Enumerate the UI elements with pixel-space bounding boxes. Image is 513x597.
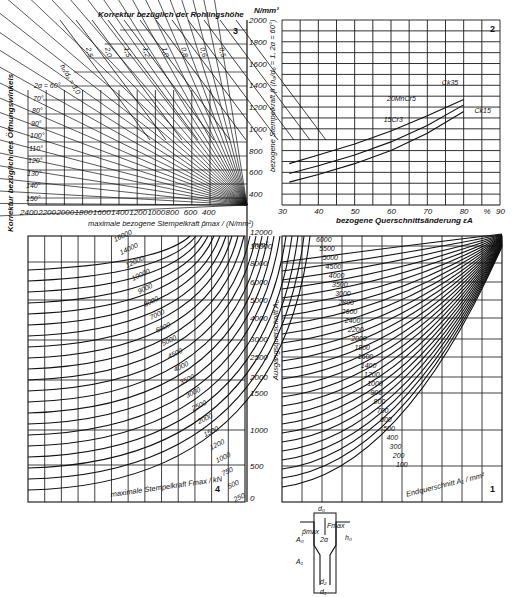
svg-text:90: 90: [496, 207, 505, 216]
svg-text:4: 4: [215, 484, 220, 494]
chart2-unit: N/mm²: [254, 6, 279, 15]
series-label: Ck35: [442, 79, 458, 86]
svg-text:2400: 2400: [344, 317, 361, 324]
svg-text:500: 500: [250, 462, 264, 471]
svg-text:0: 0: [250, 494, 255, 503]
svg-text:900: 900: [370, 389, 382, 396]
svg-text:600: 600: [184, 208, 198, 217]
svg-text:1600: 1600: [93, 208, 111, 217]
series-label: Ck15: [475, 107, 491, 114]
svg-text:2,5: 2,5: [85, 45, 95, 57]
svg-text:750: 750: [220, 466, 234, 477]
svg-text:40: 40: [314, 207, 323, 216]
svg-text:1500: 1500: [250, 389, 268, 398]
svg-text:2200: 2200: [37, 208, 56, 217]
svg-text:1,0: 1,0: [161, 46, 170, 57]
svg-text:2600: 2600: [341, 308, 358, 315]
svg-text:d₂: d₂: [320, 578, 327, 585]
curve-20mncr5: [289, 99, 463, 163]
chart2-grid: [282, 20, 500, 205]
svg-text:400: 400: [202, 208, 216, 217]
series-label: 20MnCr5: [386, 95, 416, 102]
svg-text:100: 100: [396, 461, 408, 468]
svg-text:8000: 8000: [250, 259, 268, 268]
svg-text:2α: 2α: [319, 536, 329, 543]
svg-text:1200: 1200: [129, 208, 147, 217]
svg-text:3000: 3000: [250, 335, 268, 344]
svg-text:0,8: 0,8: [180, 46, 189, 57]
svg-text:p̄max: p̄max: [301, 528, 320, 536]
svg-text:7000: 7000: [148, 308, 165, 321]
svg-text:80: 80: [460, 207, 469, 216]
svg-text:1: 1: [490, 484, 495, 494]
svg-text:5500: 5500: [319, 245, 335, 252]
chart1-unit: mm²: [252, 240, 268, 249]
svg-text:1000: 1000: [250, 426, 268, 435]
svg-text:d₁: d₁: [320, 588, 327, 595]
svg-text:0,6: 0,6: [199, 46, 208, 57]
svg-text:4500: 4500: [326, 263, 342, 270]
svg-text:12000: 12000: [124, 254, 145, 269]
svg-text:1800: 1800: [354, 344, 370, 351]
svg-text:1800: 1800: [75, 208, 93, 217]
svg-text:30: 30: [278, 207, 287, 216]
svg-text:100°: 100°: [30, 132, 45, 139]
svg-text:2000: 2000: [248, 16, 267, 25]
svg-text:4000: 4000: [250, 314, 268, 323]
svg-text:5000: 5000: [322, 254, 338, 261]
svg-text:5000: 5000: [250, 296, 268, 305]
svg-text:50: 50: [351, 207, 360, 216]
svg-text:6000: 6000: [316, 236, 332, 243]
svg-text:600: 600: [249, 168, 263, 177]
svg-text:16000: 16000: [112, 228, 133, 243]
svg-text:1400: 1400: [249, 81, 267, 90]
svg-text:80°: 80°: [32, 107, 43, 114]
svg-text:800: 800: [166, 208, 180, 217]
svg-text:3500: 3500: [332, 281, 348, 288]
svg-text:200: 200: [392, 452, 405, 459]
chart-3: 2400220020001800160014001200100080060040…: [0, 0, 326, 220]
svg-text:0,5: 0,5: [218, 46, 227, 57]
svg-text:2800: 2800: [337, 299, 354, 306]
svg-text:3500: 3500: [178, 373, 195, 386]
svg-text:14000: 14000: [118, 241, 139, 256]
svg-text:4000: 4000: [329, 272, 345, 279]
svg-text:1200: 1200: [208, 438, 225, 451]
chart3-x-label: maximale bezogene Stempelkraft p̄max / (…: [88, 219, 253, 228]
chart1-y-label: Ausgangsquerschnitt A₀: [271, 300, 280, 380]
svg-text:1400: 1400: [111, 208, 129, 217]
chart2-y-label: bezogene Stempelkraft p̄ (h₀/d₀ = 1, 2α …: [268, 20, 277, 172]
svg-text:130°: 130°: [27, 170, 42, 177]
svg-text:400: 400: [386, 434, 398, 441]
chart-2: 4006008001000120014001600180020003040506…: [247, 16, 505, 502]
curve-15cr3: [289, 105, 463, 174]
svg-text:2: 2: [490, 24, 495, 34]
svg-text:2000: 2000: [55, 208, 74, 217]
svg-text:2000: 2000: [249, 373, 268, 382]
svg-text:140°: 140°: [26, 182, 41, 189]
svg-text:10000: 10000: [130, 267, 151, 282]
svg-text:h₀: h₀: [345, 534, 352, 541]
svg-text:d₀: d₀: [318, 505, 325, 512]
svg-text:400: 400: [249, 190, 263, 199]
svg-text:1800: 1800: [249, 38, 267, 47]
svg-text:2400: 2400: [19, 208, 38, 217]
chart2-x-label: bezogene Querschnittsänderung εA: [336, 216, 473, 225]
svg-text:1600: 1600: [249, 60, 267, 69]
svg-text:2000: 2000: [350, 335, 367, 342]
svg-text:800: 800: [249, 147, 263, 156]
svg-text:1,5: 1,5: [123, 46, 132, 57]
chart-1: 0500100015002000250030004000500060008000…: [249, 228, 502, 503]
svg-text:2500: 2500: [249, 353, 268, 362]
chart3-title: Korrektur bezüglich der Rohlingshöhe: [98, 10, 244, 19]
svg-text:2α = 60°: 2α = 60°: [33, 82, 61, 89]
svg-text:12000: 12000: [250, 228, 273, 237]
svg-text:120°: 120°: [28, 157, 43, 164]
chart-4: 1600014000120001000090008000700060005000…: [28, 228, 310, 503]
svg-text:6000: 6000: [250, 278, 268, 287]
nomogram-svg: 4006008001000120014001600180020003040506…: [0, 0, 513, 597]
svg-text:%: %: [483, 207, 490, 216]
svg-text:3: 3: [233, 26, 238, 36]
die-diagram: d₀Fmaxp̄maxh₀A₀2αA₁d₂d₁: [295, 505, 352, 595]
svg-text:1000: 1000: [214, 451, 231, 464]
